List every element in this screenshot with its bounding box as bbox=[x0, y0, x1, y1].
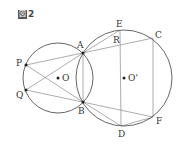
point-b bbox=[82, 101, 85, 104]
label-b: B bbox=[78, 106, 85, 116]
point-a bbox=[82, 52, 85, 55]
point-q bbox=[25, 89, 28, 92]
segment-P-C bbox=[26, 38, 153, 65]
label-a: A bbox=[76, 40, 84, 50]
points bbox=[25, 52, 126, 104]
label-p: P bbox=[16, 58, 22, 68]
point-o-prime bbox=[123, 77, 126, 80]
point-labels: ABPQOO'ERCDF bbox=[16, 19, 162, 139]
label-e: E bbox=[116, 19, 123, 29]
label-d: D bbox=[118, 129, 125, 139]
label-f: F bbox=[156, 116, 162, 126]
segment-Q-A bbox=[26, 53, 83, 90]
point-o bbox=[57, 77, 60, 80]
point-p bbox=[25, 64, 28, 67]
label-o-prime: O' bbox=[128, 73, 138, 83]
label-c: C bbox=[155, 30, 162, 40]
circles bbox=[23, 30, 172, 126]
label-o: O bbox=[62, 73, 69, 83]
geometry-diagram: ABPQOO'ERCDF bbox=[0, 0, 184, 145]
segment-E-D bbox=[120, 30, 121, 126]
segment-P-B bbox=[26, 65, 83, 102]
segment-B-D bbox=[83, 102, 121, 126]
label-r: R bbox=[113, 35, 120, 45]
label-q: Q bbox=[16, 90, 23, 100]
